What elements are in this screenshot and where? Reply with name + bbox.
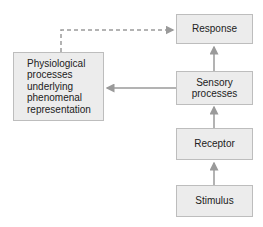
- node-label: Receptor: [194, 138, 235, 150]
- node-receptor: Receptor: [176, 128, 253, 160]
- node-label: Sensory processes: [192, 77, 238, 100]
- edge-physiological-response-dashed: [61, 30, 173, 52]
- node-stimulus: Stimulus: [176, 185, 253, 217]
- node-response: Response: [176, 14, 253, 44]
- node-label: Stimulus: [195, 195, 233, 207]
- node-label: Physiological processes underlying pheno…: [27, 58, 91, 116]
- node-sensory-processes: Sensory processes: [176, 71, 253, 105]
- node-physiological-processes: Physiological processes underlying pheno…: [13, 52, 104, 121]
- diagram: Response Sensory processes Receptor Stim…: [0, 0, 263, 227]
- node-label: Response: [192, 23, 237, 35]
